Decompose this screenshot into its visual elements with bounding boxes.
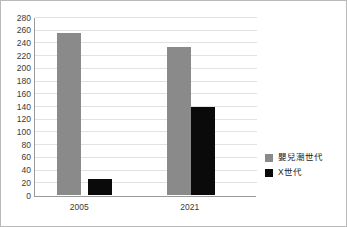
bar-genx-2021 [191,107,215,196]
x-axis-tick-label: 2021 [180,203,199,212]
legend-item[interactable]: X世代 [265,166,323,179]
bar-group [36,18,146,195]
legend-item-label: X世代 [278,168,302,177]
y-axis-tick-label: 280 [17,14,31,23]
bar-group [146,18,256,195]
y-axis-tick-label: 120 [17,115,31,124]
bar-boomer-2021 [167,47,191,195]
y-axis-tick-label: 200 [17,65,31,74]
y-axis-tick-label: 160 [17,90,31,99]
y-axis-tick-label: 140 [17,103,31,112]
y-axis-tick-label: 60 [22,154,31,163]
legend-item[interactable]: 嬰兒潮世代 [265,151,323,164]
y-axis-tick-label: 220 [17,52,31,61]
legend-swatch-icon [265,154,273,162]
y-axis-tick-label: 100 [17,128,31,137]
y-axis-tick-label: 0 [26,192,31,201]
bar-genx-2005 [88,179,112,195]
legend: 嬰兒潮世代X世代 [265,151,323,181]
legend-swatch-icon [265,169,273,177]
plot-area: 020406080100120140160180200220240260280 … [34,18,256,197]
x-axis-tick-label: 2005 [70,203,89,212]
gridline [35,195,257,196]
y-axis-tick-label: 260 [17,26,31,35]
y-axis-tick-label: 240 [17,39,31,48]
legend-item-label: 嬰兒潮世代 [278,153,323,162]
bars-layer [36,18,256,195]
y-axis-tick-label: 40 [22,166,31,175]
y-axis-tick-label: 80 [22,141,31,150]
bar-chart: 020406080100120140160180200220240260280 … [0,0,347,227]
y-axis-tick-label: 20 [22,179,31,188]
bar-boomer-2005 [57,33,81,195]
y-axis-tick-label: 180 [17,77,31,86]
